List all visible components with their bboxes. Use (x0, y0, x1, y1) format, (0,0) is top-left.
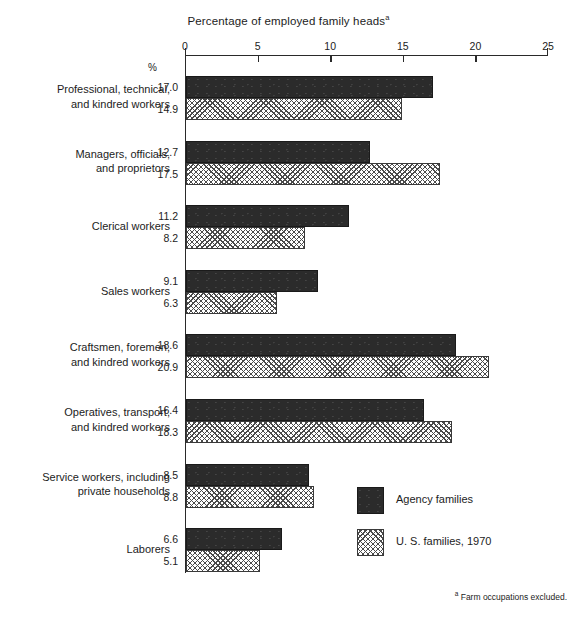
footnote-text: Farm occupations excluded. (461, 592, 567, 602)
chart-title-footnote-marker: a (385, 13, 389, 22)
category-label-line2: private households (10, 484, 170, 499)
footnote-marker: a (455, 590, 459, 597)
bar-value-label-dark: 11.2 (148, 210, 178, 222)
chart-title-text: Percentage of employed family heads (188, 15, 386, 27)
legend-swatch-solid-dark (357, 487, 384, 514)
x-axis-tick-10 (330, 55, 331, 62)
chart-title: Percentage of employed family headsa (0, 13, 577, 27)
category-label-line1: Service workers, including (10, 470, 170, 485)
bar-agency-families (186, 141, 370, 163)
x-axis-tick-label-5: 5 (255, 40, 261, 52)
x-axis-tick-5 (258, 55, 259, 62)
category-label: Sales workers (10, 284, 170, 299)
bar-group: Managers, officials,and proprietors12.71… (0, 141, 577, 185)
category-label-line2: and kindred workers (10, 420, 170, 435)
bar-agency-families (186, 270, 318, 292)
category-label: Operatives, transport,and kindred worker… (10, 405, 170, 434)
bar-us-families (186, 98, 402, 120)
bar-value-label-hatch: 14.9 (148, 103, 178, 115)
category-label: Craftsmen, foremen,and kindred workers (10, 340, 170, 369)
x-axis-tick-0 (185, 48, 186, 56)
bar-group: Sales workers9.16.3 (0, 270, 577, 314)
category-label: Managers, officials,and proprietors (10, 147, 170, 176)
bar-value-label-dark: 12.7 (148, 146, 178, 158)
bar-value-label-dark: 16.4 (148, 404, 178, 416)
x-axis-tick-label-15: 15 (397, 40, 409, 52)
bar-value-label-hatch: 20.9 (148, 361, 178, 373)
bar-value-label-hatch: 8.2 (148, 232, 178, 244)
bar-value-label-dark: 8.5 (148, 469, 178, 481)
bar-agency-families (186, 464, 309, 486)
category-label-line1: Managers, officials, (10, 147, 170, 162)
category-label-line2: and proprietors (10, 161, 170, 176)
bar-agency-families (186, 334, 456, 356)
bar-us-families (186, 227, 305, 249)
bar-group: Clerical workers11.28.2 (0, 205, 577, 249)
x-axis-tick-25 (547, 48, 548, 56)
bar-value-label-dark: 6.6 (148, 533, 178, 545)
category-label-line1: Craftsmen, foremen, (10, 340, 170, 355)
category-label: Laborers (10, 542, 170, 557)
bar-value-label-dark: 9.1 (148, 275, 178, 287)
category-label-line1: Professional, technical, (10, 82, 170, 97)
bar-value-label-hatch: 18.3 (148, 426, 178, 438)
x-axis-line (185, 55, 548, 56)
category-label: Professional, technical,and kindred work… (10, 82, 170, 111)
legend-swatch-cross-hatch (357, 529, 384, 556)
bar-group: Professional, technical,and kindred work… (0, 76, 577, 120)
category-label-line1: Clerical workers (10, 219, 170, 234)
bar-group: Operatives, transport,and kindred worker… (0, 399, 577, 443)
bar-chart: Percentage of employed family headsa % 0… (0, 0, 577, 626)
bar-agency-families (186, 528, 282, 550)
x-axis-tick-label-25: 25 (542, 40, 554, 52)
percent-symbol: % (148, 62, 157, 73)
category-label-line1: Operatives, transport, (10, 405, 170, 420)
bar-group: Service workers, includingprivate househ… (0, 464, 577, 508)
bar-us-families (186, 421, 452, 443)
bar-us-families (186, 292, 277, 314)
bar-us-families (186, 163, 440, 185)
bar-group: Craftsmen, foremen,and kindred workers18… (0, 334, 577, 378)
legend-label-us-families: U. S. families, 1970 (396, 535, 491, 547)
bar-us-families (186, 356, 489, 378)
x-axis-tick-15 (403, 55, 404, 62)
bar-value-label-hatch: 8.8 (148, 491, 178, 503)
bar-value-label-dark: 18.6 (148, 339, 178, 351)
bar-us-families (186, 486, 314, 508)
x-axis-tick-label-20: 20 (470, 40, 482, 52)
x-axis-tick-label-10: 10 (324, 40, 336, 52)
bar-value-label-hatch: 5.1 (148, 555, 178, 567)
category-label-line1: Laborers (10, 542, 170, 557)
bar-us-families (186, 550, 260, 572)
chart-footnote: a Farm occupations excluded. (455, 590, 567, 602)
x-axis-tick-20 (475, 55, 476, 62)
category-label-line2: and kindred workers (10, 97, 170, 112)
category-label-line1: Sales workers (10, 284, 170, 299)
bar-value-label-dark: 17.0 (148, 81, 178, 93)
category-label-line2: and kindred workers (10, 355, 170, 370)
bar-agency-families (186, 76, 433, 98)
bar-value-label-hatch: 17.5 (148, 168, 178, 180)
bar-agency-families (186, 205, 349, 227)
legend-label-agency-families: Agency families (396, 493, 473, 505)
category-label: Clerical workers (10, 219, 170, 234)
bar-value-label-hatch: 6.3 (148, 297, 178, 309)
bar-agency-families (186, 399, 424, 421)
category-label: Service workers, includingprivate househ… (10, 470, 170, 499)
